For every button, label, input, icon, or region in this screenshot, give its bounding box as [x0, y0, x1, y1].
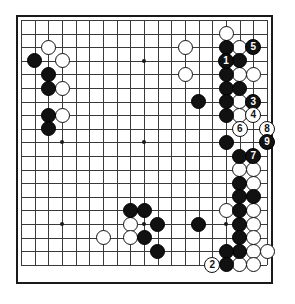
- black-stone[interactable]: [246, 189, 261, 204]
- black-stone[interactable]: [232, 81, 247, 96]
- black-stone[interactable]: [232, 244, 247, 259]
- black-stone[interactable]: [27, 53, 42, 68]
- white-stone[interactable]: [232, 257, 247, 272]
- white-stone[interactable]: [260, 244, 275, 259]
- black-stone[interactable]: [41, 67, 56, 82]
- black-stone[interactable]: [123, 203, 138, 218]
- white-stone[interactable]: [219, 26, 234, 41]
- edge-black-bottom[interactable]: [219, 257, 234, 272]
- black-stone[interactable]: [191, 217, 206, 232]
- black-stone[interactable]: [137, 203, 152, 218]
- white-stone[interactable]: [55, 108, 70, 123]
- white-stone[interactable]: [96, 230, 111, 245]
- black-stone[interactable]: [41, 81, 56, 96]
- black-stone[interactable]: [150, 244, 165, 259]
- move-6[interactable]: 6: [232, 121, 248, 137]
- move-7[interactable]: 7: [245, 148, 261, 164]
- stone-overlay: 123456789: [0, 0, 295, 304]
- white-stone[interactable]: [246, 162, 261, 177]
- move-2[interactable]: 2: [204, 257, 220, 273]
- black-stone[interactable]: [219, 108, 234, 123]
- go-diagram: 123456789: [0, 0, 295, 304]
- white-stone[interactable]: [178, 40, 193, 55]
- black-stone[interactable]: [232, 203, 247, 218]
- move-1[interactable]: 1: [218, 53, 234, 69]
- black-stone[interactable]: [191, 94, 206, 109]
- white-stone[interactable]: [246, 67, 261, 82]
- black-stone[interactable]: [232, 230, 247, 245]
- black-stone[interactable]: [219, 135, 234, 150]
- white-stone[interactable]: [55, 81, 70, 96]
- black-stone[interactable]: [232, 53, 247, 68]
- move-9[interactable]: 9: [259, 134, 275, 150]
- white-stone[interactable]: [123, 230, 138, 245]
- black-stone[interactable]: [137, 230, 152, 245]
- black-stone[interactable]: [219, 94, 234, 109]
- white-stone[interactable]: [246, 230, 261, 245]
- move-4[interactable]: 4: [245, 107, 261, 123]
- black-stone[interactable]: [41, 121, 56, 136]
- white-stone[interactable]: [41, 40, 56, 55]
- black-stone[interactable]: [150, 217, 165, 232]
- white-stone[interactable]: [232, 67, 247, 82]
- white-stone[interactable]: [246, 203, 261, 218]
- white-stone[interactable]: [232, 162, 247, 177]
- black-stone[interactable]: [219, 67, 234, 82]
- move-5[interactable]: 5: [245, 39, 261, 55]
- white-stone[interactable]: [55, 53, 70, 68]
- white-stone[interactable]: [178, 67, 193, 82]
- white-stone[interactable]: [246, 257, 261, 272]
